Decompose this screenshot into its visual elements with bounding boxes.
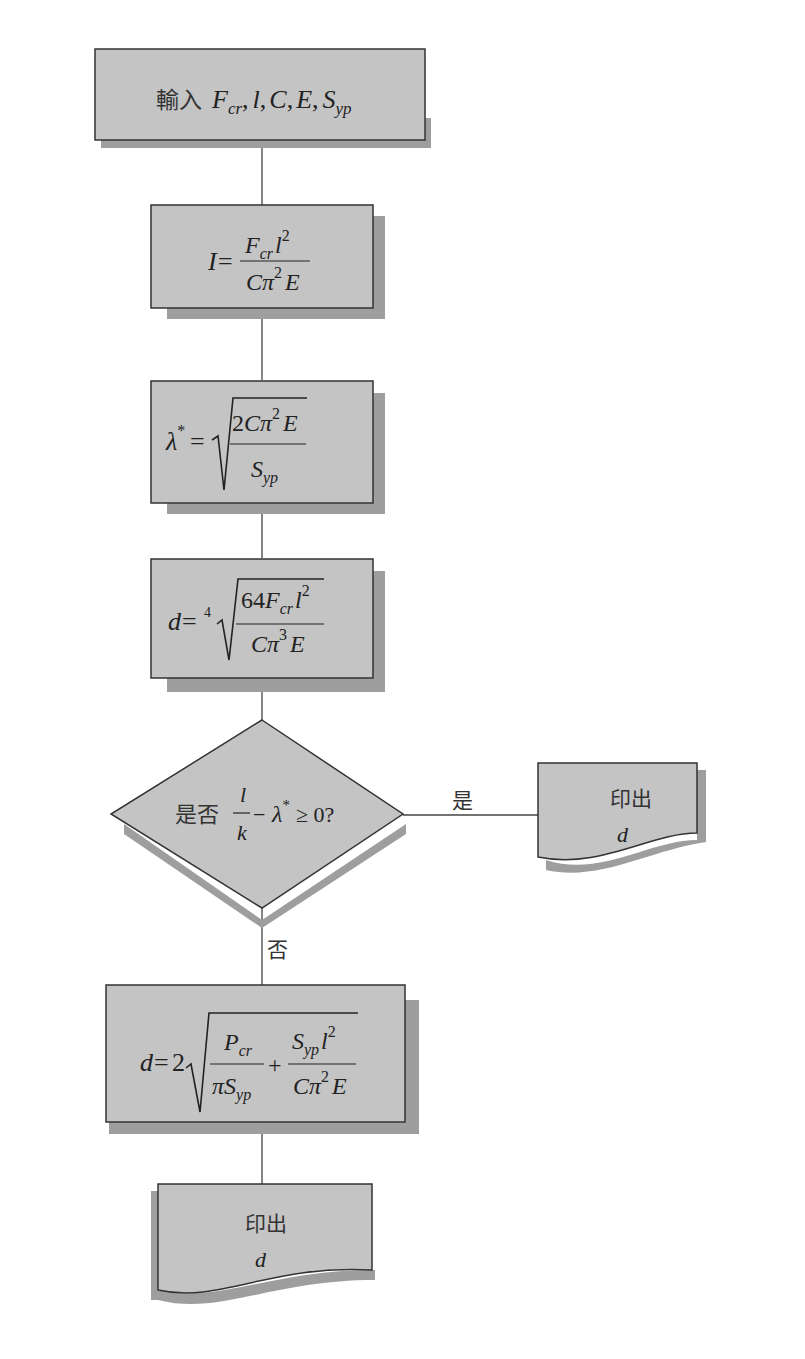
svg-text:=: = <box>182 607 197 636</box>
svg-text:=: = <box>190 427 205 456</box>
svg-text:Cπ2E: Cπ2E <box>293 1068 347 1099</box>
print-no-label: 印出 <box>245 1212 287 1236</box>
svg-text:2Cπ2E: 2Cπ2E <box>232 405 298 436</box>
no-label: 否 <box>267 938 288 962</box>
svg-text:=: = <box>154 1048 169 1077</box>
svg-text:d: d <box>168 607 182 636</box>
svg-text:+: + <box>268 1052 282 1078</box>
svg-text:2: 2 <box>172 1048 185 1077</box>
svg-text:Cπ2E: Cπ2E <box>246 264 300 295</box>
svg-text:I: I <box>207 247 218 276</box>
svg-text:64Fcrl2: 64Fcrl2 <box>241 582 310 617</box>
svg-text:−: − <box>253 802 265 827</box>
yes-label: 是 <box>452 789 473 813</box>
svg-text:4: 4 <box>204 605 211 620</box>
print-no-document: 印出 d <box>151 1184 375 1304</box>
svg-text:輸入: 輸入 <box>156 87 202 113</box>
svg-text:l: l <box>240 782 246 807</box>
input-label: 輸入 <box>156 87 202 113</box>
svg-text:d: d <box>140 1048 154 1077</box>
svg-text:是否: 是否 <box>175 802 219 827</box>
lambda-box: λ* = 2Cπ2E Syp <box>151 381 385 514</box>
svg-text:Cπ3E: Cπ3E <box>251 626 305 657</box>
svg-text:k: k <box>237 820 248 845</box>
lambda-box-body <box>151 381 373 503</box>
svg-text:d: d <box>617 822 629 847</box>
svg-text:=: = <box>218 247 233 276</box>
input-box: 輸入 Fcr,l,C,E,Syp <box>95 49 431 148</box>
svg-text:≥ 0?: ≥ 0? <box>296 802 334 827</box>
svg-text:d: d <box>255 1247 267 1272</box>
print-yes-document: 印出 d <box>538 763 706 873</box>
flowchart: 輸入 Fcr,l,C,E,Syp I = Fcrl2 Cπ2E λ* = 2Cπ… <box>0 0 805 1359</box>
print-yes-label: 印出 <box>610 787 652 811</box>
johnson-box: d = 2 Pcr πSyp + Sypl2 Cπ2E <box>106 985 419 1134</box>
inertia-box: I = Fcrl2 Cπ2E <box>151 205 385 319</box>
diameter-box: d = 4 64Fcrl2 Cπ3E <box>151 559 385 692</box>
print-no-shadow <box>151 1191 158 1300</box>
decision-diamond: 是否 l k − λ* ≥ 0? <box>111 720 406 928</box>
